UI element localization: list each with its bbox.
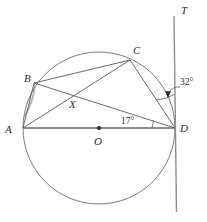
segment-AC xyxy=(23,60,130,128)
segment-BD xyxy=(34,83,175,128)
angle-arc-17 xyxy=(152,120,153,128)
point-label-X: X xyxy=(69,99,76,110)
angle-label-32: 32° xyxy=(180,78,193,88)
point-label-O: O xyxy=(94,136,102,147)
point-label-C: C xyxy=(133,45,140,56)
geometry-figure: A B C D O X T 32° 17° xyxy=(0,0,207,222)
point-label-D: D xyxy=(180,123,188,134)
angle-arc-32 xyxy=(156,94,174,100)
point-label-B: B xyxy=(24,73,31,84)
angle-label-17: 17° xyxy=(121,117,134,127)
tangent-line-T xyxy=(174,16,177,212)
center-point-O xyxy=(97,126,101,130)
point-label-A: A xyxy=(5,124,12,135)
tangent-label-T: T xyxy=(181,5,187,16)
geometry-canvas xyxy=(0,0,207,222)
segment-AB xyxy=(23,83,34,128)
